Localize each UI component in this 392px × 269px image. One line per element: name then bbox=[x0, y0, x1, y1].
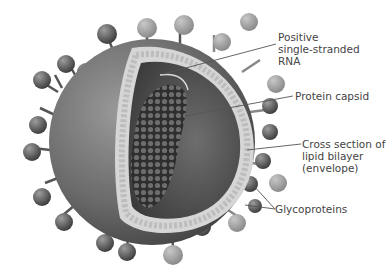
label-lipid-bilayer: Cross section of lipid bilayer (envelope… bbox=[302, 138, 385, 174]
label-glycoproteins: Glycoproteins bbox=[275, 203, 347, 215]
label-protein-capsid: Protein capsid bbox=[295, 90, 369, 102]
cross-section bbox=[115, 47, 254, 233]
virus-diagram: Positive single-stranded RNA Protein cap… bbox=[0, 0, 392, 269]
label-rna: Positive single-stranded RNA bbox=[278, 31, 360, 67]
